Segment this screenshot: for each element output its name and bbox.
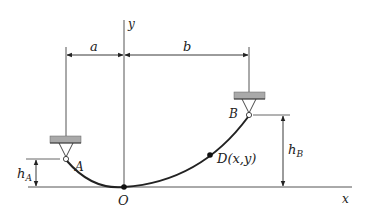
origin-label: O bbox=[118, 193, 129, 208]
catenary-diagram: x y a b A B O D(x,y) hA hB bbox=[0, 0, 367, 214]
x-axis-label: x bbox=[342, 192, 349, 206]
point-D bbox=[207, 152, 213, 158]
support-A-bracket bbox=[59, 143, 73, 157]
dim-b-label: b bbox=[183, 39, 191, 54]
dim-hA-label: hA bbox=[17, 166, 32, 183]
point-B-label: B bbox=[228, 107, 238, 121]
support-A-ceiling bbox=[50, 136, 81, 143]
dim-a-label: a bbox=[90, 39, 98, 54]
support-B-bracket bbox=[242, 99, 256, 113]
origin-point bbox=[121, 184, 127, 190]
support-B-ceiling bbox=[234, 92, 265, 99]
y-axis-label: y bbox=[127, 17, 135, 31]
dim-hB-label: hB bbox=[288, 142, 303, 159]
point-D-label: D(x,y) bbox=[216, 151, 256, 166]
